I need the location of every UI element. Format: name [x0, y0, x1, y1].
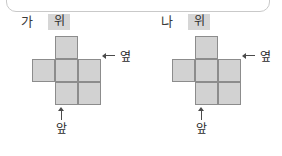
top-rounded-frame [6, 0, 270, 12]
top-view-chip-na: 위 [188, 14, 210, 30]
front-view-label-na: 앞 [196, 123, 207, 136]
arrow-left-icon [242, 51, 255, 60]
figure-label-ga: 가 [21, 15, 33, 29]
net-cell [55, 59, 78, 82]
figure-ga: 가 위 옆 앞 [0, 12, 141, 156]
net-cell [55, 36, 78, 59]
figure-na: 나 위 옆 앞 [140, 12, 281, 156]
cube-net-ga [32, 36, 100, 105]
top-view-chip-ga: 위 [48, 14, 70, 30]
net-cell [218, 82, 241, 105]
front-view-annotation-na: 앞 [188, 107, 214, 136]
net-cell [195, 82, 218, 105]
side-view-annotation-ga: 옆 [102, 50, 130, 62]
cube-net-na [172, 36, 240, 105]
side-view-label-na: 옆 [257, 50, 270, 62]
net-cell [172, 59, 195, 82]
net-cell [78, 59, 101, 82]
net-cell [195, 36, 218, 59]
net-cell [55, 82, 78, 105]
net-cell [195, 59, 218, 82]
arrow-left-icon [102, 51, 115, 60]
net-cell [78, 82, 101, 105]
arrow-up-icon [57, 107, 66, 120]
side-view-annotation-na: 옆 [242, 50, 270, 62]
figure-label-na: 나 [161, 15, 173, 29]
front-view-label-ga: 앞 [56, 123, 67, 136]
net-cell [32, 59, 55, 82]
side-view-label-ga: 옆 [117, 50, 130, 62]
arrow-up-icon [197, 107, 206, 120]
net-cell [218, 59, 241, 82]
front-view-annotation-ga: 앞 [48, 107, 74, 136]
